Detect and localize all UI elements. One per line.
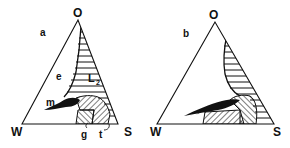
- vertex-w-a: W: [11, 125, 23, 139]
- ternary-diagrams: O W S a e L 2 m g t: [0, 0, 290, 148]
- panel-label-b: b: [183, 28, 189, 39]
- panel-b: O W S b: [150, 8, 281, 139]
- panel-a: O W S a e L 2 m g t: [11, 6, 132, 140]
- vertex-s-b: S: [273, 125, 281, 139]
- region-label-l2-subscript: 2: [96, 79, 100, 86]
- region-label-t: t: [99, 129, 103, 140]
- region-label-l2: L: [88, 72, 95, 84]
- region-label-e: e: [56, 71, 62, 82]
- vertex-o-b: O: [209, 8, 218, 22]
- region-label-g: g: [81, 129, 87, 140]
- vertex-w-b: W: [150, 125, 162, 139]
- vertex-o-a: O: [73, 6, 82, 20]
- vertex-s-a: S: [124, 125, 132, 139]
- region-label-m: m: [46, 97, 55, 108]
- l2-region-b: [184, 34, 274, 124]
- panel-label-a: a: [40, 27, 46, 38]
